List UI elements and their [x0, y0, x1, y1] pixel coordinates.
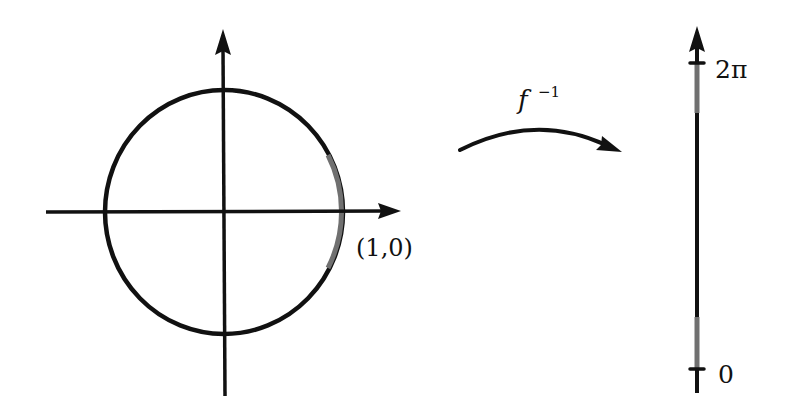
- curved-arrow-shaft: [460, 130, 606, 150]
- y-axis: [223, 48, 225, 396]
- unit-circle-panel: (1,0): [46, 29, 413, 396]
- x-axis: [46, 211, 384, 212]
- interval-panel: 2π 0: [689, 26, 747, 393]
- diagram-canvas: (1,0) f −1 2π 0: [0, 0, 790, 415]
- x-axis-arrowhead-icon: [378, 203, 401, 219]
- point-label: (1,0): [356, 234, 413, 262]
- label-2pi: 2π: [715, 55, 747, 84]
- label-0: 0: [718, 360, 734, 389]
- map-label-superscript: −1: [538, 83, 560, 101]
- map-label-base: f: [516, 85, 532, 115]
- mapping-arrow: f −1: [460, 83, 622, 152]
- map-label: f −1: [516, 83, 560, 115]
